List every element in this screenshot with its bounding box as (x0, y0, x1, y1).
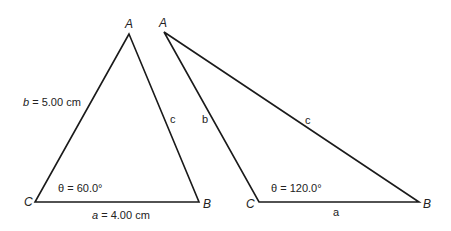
left-side-a-label: a = 4.00 cm (92, 209, 150, 221)
right-vertex-b: B (423, 197, 431, 211)
left-vertex-a: A (124, 17, 133, 31)
right-vertex-c: C (246, 197, 255, 211)
right-vertex-a: A (158, 16, 167, 30)
left-angle-label: θ = 60.0° (58, 182, 102, 194)
left-side-c-label: c (170, 113, 176, 125)
triangle-diagram: A C B b = 5.00 cm c θ = 60.0° a = 4.00 c… (0, 0, 451, 231)
right-side-b-label: b (202, 113, 208, 125)
right-side-c-label: c (305, 114, 311, 126)
left-vertex-c: C (24, 195, 33, 209)
right-angle-label: θ = 120.0° (271, 182, 322, 194)
right-side-a-label: a (333, 206, 340, 218)
left-side-b-label: b = 5.00 cm (23, 96, 81, 108)
left-vertex-b: B (203, 197, 211, 211)
